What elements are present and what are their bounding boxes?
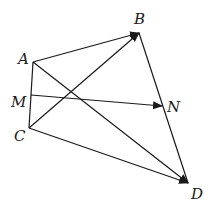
vector-mn bbox=[31, 95, 162, 106]
point-label-a: A bbox=[16, 50, 29, 68]
point-label-m: M bbox=[10, 93, 27, 111]
segment-bd bbox=[139, 33, 188, 183]
point-label-c: C bbox=[14, 127, 26, 145]
geometry-diagram: ABMNCD A B M N C D bbox=[0, 0, 218, 201]
vector-cb bbox=[29, 33, 139, 128]
vector-ad bbox=[33, 62, 188, 183]
point-label-b: B bbox=[133, 10, 145, 28]
point-label-d: D bbox=[190, 185, 203, 201]
vector-figure: ABMNCD bbox=[0, 0, 218, 201]
point-label-n: N bbox=[166, 98, 181, 116]
vector-cd bbox=[29, 128, 188, 183]
